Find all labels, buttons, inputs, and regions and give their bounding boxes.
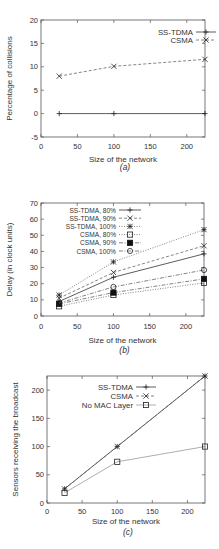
y-tick-label: 50 [30,231,38,240]
y-tick-label: -5 [31,133,38,142]
series-csma-80 [57,280,207,309]
y-axis-label: Sensors receiving the broadcast [11,382,20,497]
y-tick-label: 0 [34,312,38,321]
series-ss-tdma-80 [57,251,207,304]
y-tick-label: 40 [30,247,38,256]
legend-label: CSMA, 90% [80,239,116,246]
legend-label: SS-TDMA, 100% [66,223,116,230]
y-tick-label: 150 [31,414,44,423]
legend-label: SS-TDMA [98,383,134,392]
legend: SS-TDMACSMANo MAC Layer [82,383,156,410]
legend: SS-TDMACSMA [158,28,216,45]
legend-label: CSMA [110,392,133,401]
x-axis-label: Size of the network [92,517,161,526]
x-axis-label: Size of the network [88,336,157,345]
y-axis-label: Percentage of collisions [5,36,14,121]
y-tick-label: 10 [30,295,38,304]
legend-label: CSMA, 100% [76,248,116,255]
x-tick-label: 0 [45,507,49,516]
figure-svg: 050100150200-505101520SS-TDMACSMASize of… [0,0,219,549]
legend-label: CSMA [170,36,193,45]
y-tick-label: 20 [30,279,38,288]
series-ss-tdma [57,111,208,116]
x-tick-label: 0 [39,142,43,151]
x-tick-label: 0 [39,322,43,331]
y-tick-label: 5 [34,86,38,95]
series-csma [57,57,208,79]
y-tick-label: 30 [30,263,38,272]
chart-a-collisions: 050100150200-505101520SS-TDMACSMASize of… [5,16,216,172]
chart-c-broadcast: 050100150200050100150200SS-TDMACSMANo MA… [11,373,208,537]
x-tick-label: 100 [108,142,121,151]
x-tick-label: 50 [73,322,81,331]
chart-b-delay: 050100150200010203040506070SS-TDMA, 80%S… [5,199,207,355]
y-tick-label: 15 [30,39,38,48]
legend: SS-TDMA, 80%SS-TDMA, 90%SS-TDMA, 100%CSM… [66,207,141,255]
legend-label: CSMA, 80% [80,231,116,238]
x-tick-label: 100 [107,322,120,331]
y-tick-label: 50 [36,470,44,479]
y-tick-label: 70 [30,199,38,208]
legend-label: SS-TDMA, 90% [69,215,116,222]
x-tick-label: 200 [181,507,194,516]
y-tick-label: 10 [30,62,38,71]
x-tick-label: 200 [180,322,193,331]
y-tick-label: 200 [31,386,44,395]
series-csma-100 [57,267,207,305]
y-tick-label: 60 [30,215,38,224]
series-no-mac-layer [62,444,208,495]
y-tick-label: 0 [34,109,38,118]
y-tick-label: 100 [31,442,44,451]
y-tick-label: 0 [40,499,44,508]
x-tick-label: 150 [144,142,157,151]
y-axis-label: Delay (in clock units) [5,222,14,296]
legend-label: No MAC Layer [82,401,134,410]
x-tick-label: 50 [73,142,81,151]
legend-label: SS-TDMA, 80% [69,207,116,214]
y-tick-label: 20 [30,16,38,25]
x-tick-label: 50 [78,507,86,516]
x-tick-label: 150 [146,507,159,516]
x-tick-label: 150 [143,322,156,331]
figure: 050100150200-505101520SS-TDMACSMASize of… [0,0,219,549]
series-ss-tdma-100 [57,227,207,298]
figure-caption: (b) [119,345,130,355]
x-tick-label: 200 [181,142,194,151]
figure-caption: (c) [123,527,133,537]
x-tick-label: 100 [111,507,124,516]
figure-caption: (a) [120,162,131,172]
